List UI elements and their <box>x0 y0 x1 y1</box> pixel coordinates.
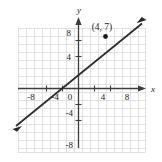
y-tick-label--8: -8 <box>66 140 74 150</box>
graph-svg: -8 -4 0 4 8 4 8 -4 -8 x y (4, 7) <box>0 0 162 162</box>
y-tick-label-8: 8 <box>67 28 72 38</box>
coordinate-plane-figure: -8 -4 0 4 8 4 8 -4 -8 x y (4, 7) <box>0 0 162 162</box>
x-tick-label-8: 8 <box>125 92 130 102</box>
point-annotation-label: (4, 7) <box>92 22 113 33</box>
x-tick-label-0: 0 <box>68 92 73 102</box>
y-tick-label--4: -4 <box>66 108 74 118</box>
x-tick-label--8: -8 <box>27 92 35 102</box>
x-tick-label--4: -4 <box>51 92 59 102</box>
y-axis-label: y <box>76 5 81 15</box>
x-tick-label-4: 4 <box>101 92 106 102</box>
y-tick-label-4: 4 <box>67 52 72 62</box>
data-point-4-7 <box>103 34 108 39</box>
x-axis-label: x <box>150 84 155 94</box>
